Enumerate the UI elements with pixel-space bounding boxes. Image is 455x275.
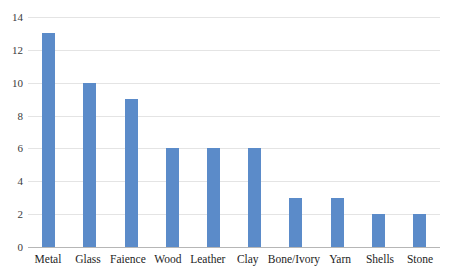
y-axis-tick-label: 4	[18, 176, 24, 187]
x-axis-tick-label: Clay	[237, 253, 259, 265]
x-axis-line: 0	[28, 247, 440, 248]
y-axis-tick-label: 6	[18, 143, 24, 154]
bar-slot	[358, 17, 399, 247]
bar	[289, 198, 302, 247]
x-axis-tick-label: Glass	[75, 253, 101, 265]
x-axis-label-slot: Stone	[400, 249, 440, 267]
bar	[248, 148, 261, 247]
plot-area: 14121086420	[28, 17, 440, 247]
bar	[166, 148, 179, 247]
y-axis-tick-label: 12	[12, 44, 23, 55]
y-axis-tick-label: 14	[12, 12, 23, 23]
bar-slot	[193, 17, 234, 247]
x-axis-tick-label: Yarn	[329, 253, 351, 265]
bar-slot	[316, 17, 357, 247]
bar-chart: 14121086420 MetalGlassFaienceWoodLeather…	[0, 0, 455, 275]
bar	[372, 214, 385, 247]
x-axis-label-slot: Yarn	[320, 249, 360, 267]
bar-slot	[110, 17, 151, 247]
bar-slot	[152, 17, 193, 247]
x-axis-tick-label: Wood	[154, 253, 181, 265]
x-axis-label-slot: Wood	[148, 249, 188, 267]
x-axis-label-slot: Metal	[28, 249, 68, 267]
x-axis-label-slot: Glass	[68, 249, 108, 267]
x-axis-label-slot: Shells	[360, 249, 400, 267]
x-axis-labels: MetalGlassFaienceWoodLeatherClayBone/Ivo…	[28, 249, 440, 267]
bar-slot	[69, 17, 110, 247]
bar	[413, 214, 426, 247]
bar	[42, 33, 55, 247]
x-axis-tick-label: Stone	[407, 253, 433, 265]
y-axis-tick-label: 0	[18, 242, 24, 253]
x-axis-label-slot: Leather	[188, 249, 228, 267]
y-axis-tick-label: 8	[18, 110, 24, 121]
y-axis-tick-label: 2	[18, 209, 24, 220]
bar-slot	[399, 17, 440, 247]
x-axis-label-slot: Clay	[228, 249, 268, 267]
bar-slot	[28, 17, 69, 247]
bars-layer	[28, 17, 440, 247]
bar	[125, 99, 138, 247]
bar-slot	[275, 17, 316, 247]
x-axis-label-slot: Faience	[108, 249, 148, 267]
y-axis-tick-label: 10	[12, 77, 23, 88]
x-axis-tick-label: Metal	[35, 253, 62, 265]
x-axis-tick-label: Shells	[366, 253, 394, 265]
x-axis-tick-label: Faience	[110, 253, 146, 265]
bar-slot	[234, 17, 275, 247]
bar	[83, 83, 96, 247]
x-axis-label-slot: Bone/Ivory	[268, 249, 320, 267]
bar	[207, 148, 220, 247]
x-axis-tick-label: Leather	[190, 253, 225, 265]
x-axis-tick-label: Bone/Ivory	[268, 253, 320, 265]
bar	[331, 198, 344, 247]
